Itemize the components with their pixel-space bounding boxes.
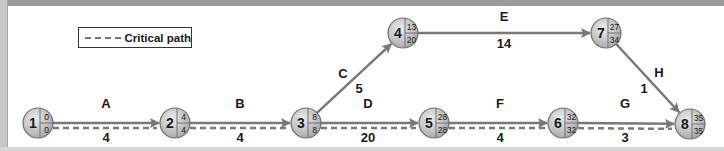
node-earliest-time: 8 xyxy=(312,112,317,122)
node-number: 8 xyxy=(681,116,689,132)
activity-duration-label: 3 xyxy=(621,130,628,145)
activity-name-label: E xyxy=(500,9,509,24)
activity-name-label: G xyxy=(620,96,630,111)
node-latest-time: 8 xyxy=(312,125,317,135)
event-node-8: 83535 xyxy=(675,109,705,139)
event-node-5: 52828 xyxy=(419,108,449,138)
activity-arrow-c xyxy=(317,44,391,113)
node-number: 6 xyxy=(554,115,562,131)
activity-duration-label: 5 xyxy=(355,81,362,96)
event-node-6: 63232 xyxy=(548,108,578,138)
node-earliest-time: 32 xyxy=(567,112,577,122)
node-earliest-time: 35 xyxy=(694,113,704,123)
event-node-1: 100 xyxy=(23,108,53,138)
node-latest-time: 35 xyxy=(694,126,704,136)
node-earliest-time: 0 xyxy=(44,112,49,122)
critical-path-layer xyxy=(53,128,672,129)
node-number: 3 xyxy=(297,115,305,131)
node-number: 1 xyxy=(29,115,37,131)
activity-duration-label: 1 xyxy=(640,81,647,96)
activity-name-label: C xyxy=(338,66,348,81)
event-node-2: 244 xyxy=(160,108,190,138)
activity-arrow-g xyxy=(578,123,674,124)
event-node-7: 72734 xyxy=(591,18,621,48)
node-number: 7 xyxy=(597,25,605,41)
activity-name-label: D xyxy=(363,96,372,111)
activity-duration-label: 4 xyxy=(496,130,504,145)
node-latest-time: 0 xyxy=(44,125,49,135)
node-latest-time: 28 xyxy=(438,125,448,135)
critical-path-dash-icon xyxy=(85,37,121,39)
network-diagram: A4B4C5D20E14F4G3H1 100244388413205282863… xyxy=(0,0,724,151)
node-earliest-time: 13 xyxy=(407,22,417,32)
node-latest-time: 20 xyxy=(407,35,417,45)
legend-label: Critical path xyxy=(125,32,191,44)
activity-duration-label: 14 xyxy=(497,36,512,51)
critical-path-segment-g xyxy=(578,128,672,129)
activity-duration-label: 4 xyxy=(236,130,244,145)
activity-duration-label: 4 xyxy=(102,130,110,145)
event-node-3: 388 xyxy=(291,108,321,138)
activity-name-label: H xyxy=(654,65,663,80)
activity-name-label: F xyxy=(496,96,504,111)
legend: Critical path xyxy=(78,27,192,48)
node-earliest-time: 4 xyxy=(181,112,186,122)
node-number: 5 xyxy=(425,115,433,131)
event-node-4: 41320 xyxy=(388,18,418,48)
node-number: 2 xyxy=(166,115,174,131)
node-latest-time: 34 xyxy=(610,35,620,45)
activity-name-label: A xyxy=(101,96,111,111)
activity-duration-label: 20 xyxy=(361,130,375,145)
node-latest-time: 32 xyxy=(567,125,577,135)
node-earliest-time: 28 xyxy=(438,112,448,122)
node-earliest-time: 27 xyxy=(610,22,620,32)
node-number: 4 xyxy=(394,25,402,41)
activity-name-label: B xyxy=(235,96,244,111)
node-latest-time: 4 xyxy=(181,125,186,135)
